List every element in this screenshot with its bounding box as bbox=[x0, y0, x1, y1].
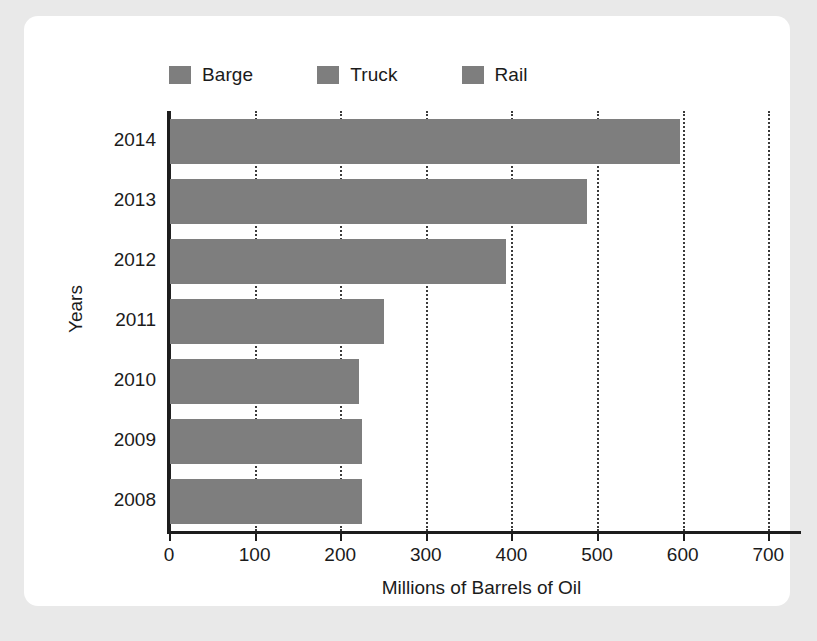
bar-fill bbox=[169, 119, 680, 164]
y-tick-label-2012: 2012 bbox=[114, 249, 156, 271]
bar-2010 bbox=[169, 359, 359, 404]
x-tick-600 bbox=[683, 531, 685, 541]
bar-fill bbox=[169, 479, 362, 524]
bar-2014 bbox=[169, 119, 680, 164]
x-tick-label-400: 400 bbox=[481, 544, 541, 566]
bar-2011 bbox=[169, 299, 384, 344]
x-axis-line bbox=[167, 531, 801, 534]
bar-2012 bbox=[169, 239, 506, 284]
y-tick-label-2009: 2009 bbox=[114, 429, 156, 451]
bar-2008 bbox=[169, 479, 362, 524]
bar-2013 bbox=[169, 179, 587, 224]
chart-legend: Barge Truck Rail bbox=[169, 62, 592, 88]
gridline-600 bbox=[683, 111, 685, 531]
legend-item-rail: Rail bbox=[462, 64, 528, 86]
y-axis-tick-labels: 2014201320122011201020092008 bbox=[24, 111, 156, 531]
y-axis-title: Years bbox=[65, 249, 87, 369]
bar-fill bbox=[169, 419, 362, 464]
gridline-700 bbox=[768, 111, 770, 531]
legend-label-truck: Truck bbox=[350, 64, 397, 86]
legend-item-barge: Barge bbox=[169, 64, 253, 86]
legend-label-barge: Barge bbox=[202, 64, 253, 86]
x-tick-label-0: 0 bbox=[139, 544, 199, 566]
x-tick-label-600: 600 bbox=[653, 544, 713, 566]
x-tick-label-500: 500 bbox=[567, 544, 627, 566]
chart-page: Barge Truck Rail 20142013201220112010200… bbox=[0, 0, 817, 641]
bar-fill bbox=[169, 179, 587, 224]
y-tick-label-2013: 2013 bbox=[114, 189, 156, 211]
gridline-500 bbox=[597, 111, 599, 531]
x-axis-title: Millions of Barrels of Oil bbox=[169, 577, 794, 599]
x-tick-100 bbox=[255, 531, 257, 541]
y-tick-label-2008: 2008 bbox=[114, 489, 156, 511]
x-tick-400 bbox=[511, 531, 513, 541]
legend-label-rail: Rail bbox=[495, 64, 528, 86]
x-tick-label-300: 300 bbox=[396, 544, 456, 566]
bar-fill bbox=[169, 359, 359, 404]
y-tick-label-2011: 2011 bbox=[115, 309, 156, 331]
y-tick-label-2010: 2010 bbox=[114, 369, 156, 391]
legend-swatch-rail-icon bbox=[462, 66, 484, 84]
chart-card: Barge Truck Rail 20142013201220112010200… bbox=[24, 16, 790, 606]
gridline-300 bbox=[426, 111, 428, 531]
gridline-400 bbox=[511, 111, 513, 531]
bar-fill bbox=[169, 239, 506, 284]
x-tick-0 bbox=[169, 531, 171, 541]
x-tick-label-200: 200 bbox=[310, 544, 370, 566]
legend-swatch-truck-icon bbox=[317, 66, 339, 84]
y-tick-label-2014: 2014 bbox=[114, 129, 156, 151]
bar-2009 bbox=[169, 419, 362, 464]
x-tick-700 bbox=[768, 531, 770, 541]
plot-area bbox=[169, 111, 794, 531]
legend-swatch-barge-icon bbox=[169, 66, 191, 84]
x-tick-300 bbox=[426, 531, 428, 541]
x-tick-label-700: 700 bbox=[738, 544, 798, 566]
legend-item-truck: Truck bbox=[317, 64, 397, 86]
x-tick-200 bbox=[340, 531, 342, 541]
y-axis-line bbox=[167, 111, 170, 534]
bar-fill bbox=[169, 299, 384, 344]
x-tick-500 bbox=[597, 531, 599, 541]
x-tick-label-100: 100 bbox=[225, 544, 285, 566]
